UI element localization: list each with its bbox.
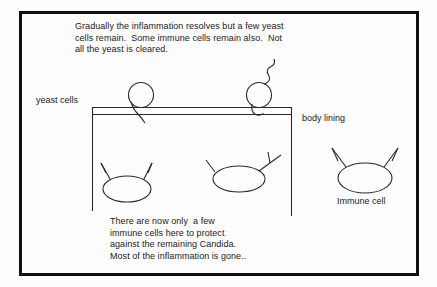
- immune-cell-left-arm-upper-right-tip: [148, 163, 152, 173]
- yeast-cell-left: [129, 83, 154, 124]
- yeast-cells-label: yeast cells: [36, 95, 78, 105]
- immune-cell-left-body: [103, 176, 151, 202]
- immune-cell-right-arm-upper-left: [332, 148, 346, 167]
- yeast-cell-right-body: [247, 83, 272, 108]
- immune-cell-right: [332, 148, 398, 193]
- immune-cell-left-arm-upper-left-tip: [101, 163, 106, 173]
- yeast-cell-left-body: [129, 83, 154, 108]
- diagram-canvas: Gradually the inflammation resolves but …: [0, 0, 437, 287]
- immune-cell-middle-arm-right-tip: [268, 152, 270, 163]
- top-annotation-text: Gradually the inflammation resolves but …: [75, 21, 284, 56]
- immune-cell-right-arm-upper-right: [384, 148, 398, 167]
- yeast-cell-right: [247, 59, 275, 115]
- immune-cell-middle-arm-left: [206, 160, 215, 172]
- bottom-annotation-text: There are now only a few immune cells he…: [110, 216, 246, 262]
- body-lining-label: body lining: [302, 113, 345, 123]
- immune-cell-left: [101, 163, 152, 202]
- body-lining-group: [92, 108, 292, 217]
- immune-cell-middle: [206, 152, 281, 192]
- immune-cell-middle-body: [213, 166, 265, 192]
- immune-cell-label: Immune cell: [337, 196, 386, 206]
- yeast-cell-right-tendril: [264, 59, 275, 85]
- immune-cell-right-body: [338, 163, 392, 193]
